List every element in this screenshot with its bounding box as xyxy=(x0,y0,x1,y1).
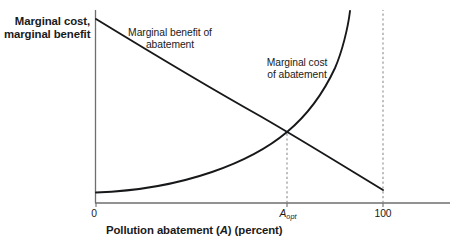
marginal-cost-curve-label: Marginal costof abatement xyxy=(258,57,336,81)
marginal-benefit-curve-label: Marginal benefit ofabatement xyxy=(118,27,222,51)
marginal-benefit-label-line1: Marginal benefit of xyxy=(128,27,212,38)
x-tick-label-100: 100 xyxy=(366,208,400,220)
y-axis-label: Marginal cost,marginal benefit xyxy=(4,15,90,42)
x-axis-label-variable: A xyxy=(220,224,228,236)
marginal-benefit-label-line2: abatement xyxy=(146,39,194,50)
x-axis-label-tail: ) (percent) xyxy=(228,224,283,236)
x-tick-label-aopt-sub: opt xyxy=(286,212,296,221)
marginal-cost-label-line1: Marginal cost xyxy=(267,57,328,68)
x-axis-label: Pollution abatement (A) (percent) xyxy=(106,224,282,237)
y-axis-label-line2: marginal benefit xyxy=(4,28,90,40)
x-tick-label-0: 0 xyxy=(82,208,106,220)
marginal-cost-label-line2: of abatement xyxy=(267,69,327,80)
figure-marginal-cost-benefit-abatement: Marginal cost,marginal benefit Pollution… xyxy=(0,0,462,242)
x-axis-label-main: Pollution abatement ( xyxy=(106,224,220,236)
y-axis-label-line1: Marginal cost, xyxy=(15,15,90,27)
x-tick-label-aopt: Aopt xyxy=(268,208,308,220)
